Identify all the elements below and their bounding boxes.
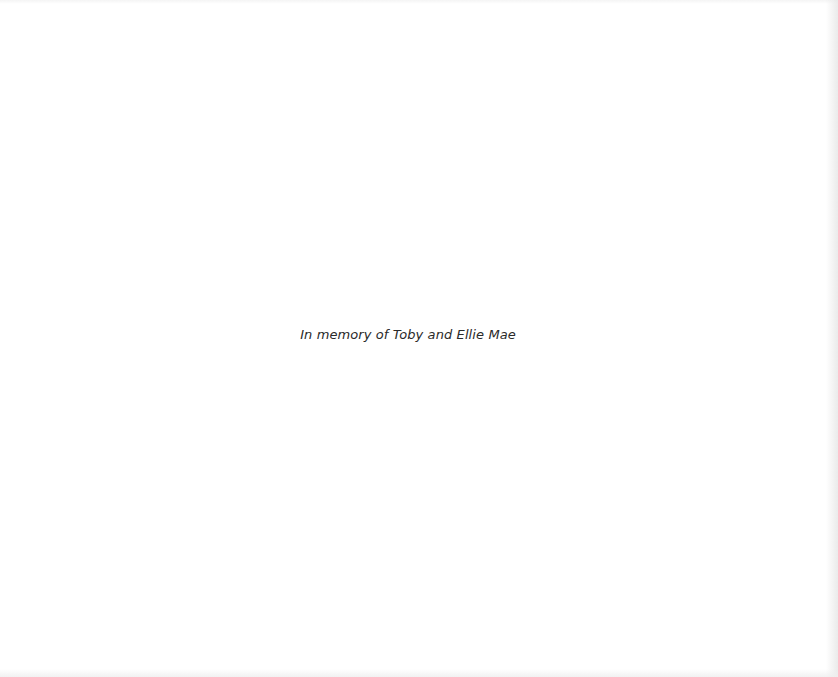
page-edge-shadow: [826, 0, 838, 677]
book-page: In memory of Toby and Ellie Mae: [0, 0, 838, 677]
dedication-text: In memory of Toby and Ellie Mae: [0, 327, 816, 342]
page-edge-top: [0, 0, 838, 4]
page-edge-bottom: [0, 669, 838, 677]
